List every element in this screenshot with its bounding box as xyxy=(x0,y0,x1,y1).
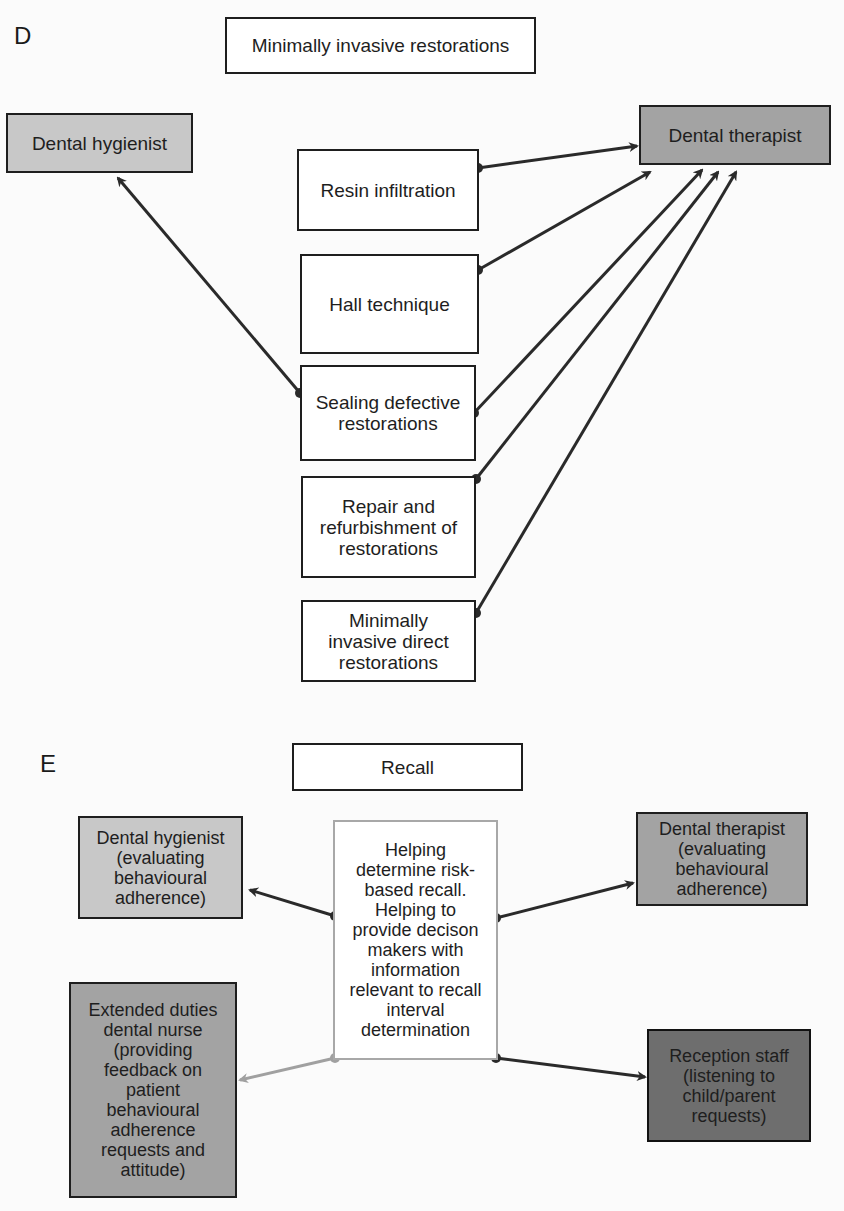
dental-hygienist-label: Dental hygienist xyxy=(32,133,167,154)
extended-duties-nurse-label: Extended duties dental nurse (providing … xyxy=(88,1000,217,1180)
technique-hall: Hall technique xyxy=(300,254,479,354)
technique-repair-refurbishment: Repair and refurbishment of restorations xyxy=(301,476,476,578)
reception-staff-box: Reception staff (listening to child/pare… xyxy=(647,1029,811,1142)
arrow-direct-to-therapist xyxy=(476,172,736,613)
panel-d-title-box: Minimally invasive restorations xyxy=(225,17,536,74)
arrow-repair-to-therapist xyxy=(476,172,718,479)
arrow-sealing-to-hygienist xyxy=(118,178,300,393)
arrow-center-to-nurse xyxy=(240,1058,335,1080)
dental-therapist-box: Dental therapist xyxy=(639,105,831,165)
dental-hygienist-box: Dental hygienist xyxy=(6,113,193,173)
technique-label: Minimally invasive direct restorations xyxy=(328,610,448,673)
arrow-center-to-therapist xyxy=(496,883,633,918)
arrow-hall-to-therapist xyxy=(478,172,650,270)
arrow-center-to-reception xyxy=(496,1058,645,1077)
arrow-center-to-hygienist xyxy=(250,890,335,916)
panel-d-title: Minimally invasive restorations xyxy=(252,35,510,56)
recall-title-box: Recall xyxy=(292,743,523,791)
technique-resin-infiltration: Resin infiltration xyxy=(297,149,479,231)
recall-title: Recall xyxy=(381,757,434,778)
technique-label: Hall technique xyxy=(329,294,449,315)
technique-label: Repair and refurbishment of restorations xyxy=(320,496,457,559)
therapist-recall-label: Dental therapist (evaluating behavioural… xyxy=(659,819,785,899)
extended-duties-nurse-box: Extended duties dental nurse (providing … xyxy=(69,982,237,1198)
technique-minimally-invasive-direct: Minimally invasive direct restorations xyxy=(301,600,476,682)
hygienist-recall-label: Dental hygienist (evaluating behavioural… xyxy=(96,828,224,908)
recall-center-text: Helping determine risk- based recall. He… xyxy=(349,840,481,1040)
arrow-resin-to-therapist xyxy=(478,146,637,168)
arrow-sealing-to-therapist xyxy=(474,170,702,413)
panel-d-label: D xyxy=(14,22,31,50)
recall-center-box: Helping determine risk- based recall. He… xyxy=(333,820,498,1060)
technique-label: Resin infiltration xyxy=(320,180,455,201)
technique-label: Sealing defective restorations xyxy=(316,392,461,434)
technique-sealing-defective: Sealing defective restorations xyxy=(300,365,476,461)
dental-therapist-label: Dental therapist xyxy=(668,125,801,146)
hygienist-recall-box: Dental hygienist (evaluating behavioural… xyxy=(78,816,243,919)
panel-e-label: E xyxy=(40,750,56,778)
therapist-recall-box: Dental therapist (evaluating behavioural… xyxy=(636,812,808,906)
reception-staff-label: Reception staff (listening to child/pare… xyxy=(669,1046,789,1126)
